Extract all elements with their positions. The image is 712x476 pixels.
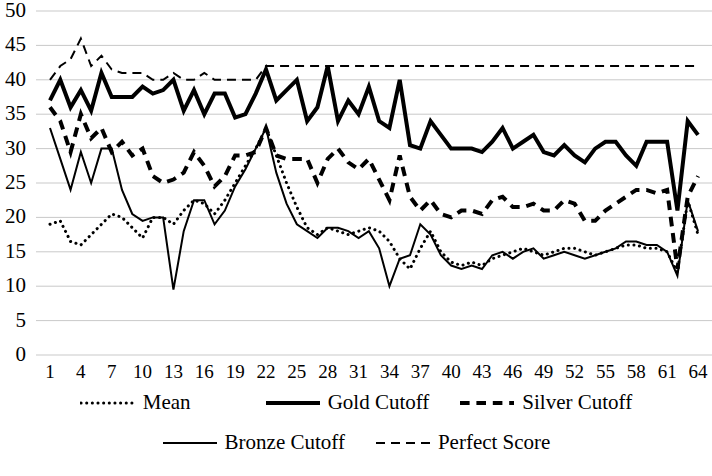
legend-entry-bronze-cutoff: Bronze Cutoff [162, 432, 345, 453]
x-axis-tick-label: 19 [218, 362, 252, 381]
legend-label-perfect-score: Perfect Score [438, 432, 551, 453]
x-axis-tick-label: 46 [496, 362, 530, 381]
x-axis-tick-label: 13 [156, 362, 190, 381]
gridlines [36, 11, 712, 355]
legend-swatch-perfect-score-icon [375, 434, 431, 452]
series-line-gold-cutoff [50, 66, 698, 210]
y-axis-tick-label: 10 [0, 275, 26, 296]
legend-swatch-mean-icon [80, 394, 136, 412]
legend-label-gold-cutoff: Gold Cutoff [328, 392, 430, 413]
x-axis-tick-label: 55 [588, 362, 622, 381]
legend-row-top: Mean Gold Cutoff Silver Cutoff [0, 392, 712, 413]
y-axis-tick-label: 30 [0, 138, 26, 159]
y-axis-tick-label: 5 [0, 310, 26, 331]
y-axis-tick-label: 20 [0, 206, 26, 227]
legend-label-mean: Mean [143, 392, 191, 413]
legend-swatch-silver-cutoff-icon [459, 394, 515, 412]
x-axis-tick-label: 40 [434, 362, 468, 381]
legend-entry-mean: Mean [80, 392, 191, 413]
legend-row-bottom: Bronze Cutoff Perfect Score [0, 432, 712, 453]
legend-label-bronze-cutoff: Bronze Cutoff [225, 432, 345, 453]
y-axis-tick-label: 15 [0, 241, 26, 262]
x-axis-tick-label: 16 [187, 362, 221, 381]
x-axis-tick-label: 64 [681, 362, 712, 381]
x-axis-tick-label: 25 [280, 362, 314, 381]
x-axis-tick-label: 49 [527, 362, 561, 381]
y-axis-tick-label: 25 [0, 172, 26, 193]
x-axis-tick-label: 22 [249, 362, 283, 381]
x-axis-tick-label: 28 [311, 362, 345, 381]
x-axis-tick-label: 37 [403, 362, 437, 381]
x-axis-tick-label: 10 [126, 362, 160, 381]
legend-swatch-gold-cutoff-icon [265, 394, 321, 412]
x-axis-tick-label: 34 [372, 362, 406, 381]
legend-entry-perfect-score: Perfect Score [375, 432, 551, 453]
series-line-mean [50, 128, 698, 272]
legend-entry-gold-cutoff: Gold Cutoff [265, 392, 430, 413]
series-line-perfect-score [50, 39, 698, 80]
x-axis-tick-label: 58 [619, 362, 653, 381]
x-axis-tick-label: 52 [558, 362, 592, 381]
chart-container: 50454035302520151050 1471013161922252831… [0, 0, 712, 476]
chart-legend: Mean Gold Cutoff Silver Cutoff Bronze Cu… [0, 386, 712, 476]
x-axis-tick-label: 1 [33, 362, 67, 381]
x-axis-tick-label: 61 [650, 362, 684, 381]
legend-label-silver-cutoff: Silver Cutoff [522, 392, 632, 413]
legend-entry-silver-cutoff: Silver Cutoff [459, 392, 632, 413]
y-axis-tick-label: 40 [0, 69, 26, 90]
x-axis-tick-label: 43 [465, 362, 499, 381]
y-axis-tick-label: 0 [0, 344, 26, 365]
x-axis-tick-label: 31 [342, 362, 376, 381]
y-axis-tick-label: 45 [0, 34, 26, 55]
x-axis-tick-label: 4 [64, 362, 98, 381]
y-axis-tick-label: 35 [0, 103, 26, 124]
y-axis-tick-label: 50 [0, 0, 26, 21]
x-axis-tick-label: 7 [95, 362, 129, 381]
series-line-silver-cutoff [50, 107, 698, 269]
series-line-bronze-cutoff [50, 128, 698, 290]
legend-swatch-bronze-cutoff-icon [162, 434, 218, 452]
